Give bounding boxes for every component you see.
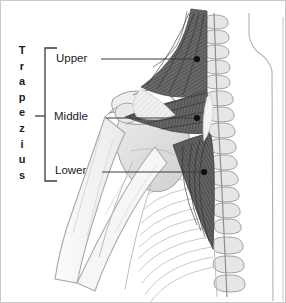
leader-dot-upper [194, 56, 200, 62]
leader-line-middle [106, 115, 200, 121]
annotation-layer [1, 1, 286, 303]
leader-dot-lower [201, 169, 207, 175]
title-letter: T [19, 43, 26, 59]
title-letter: s [19, 168, 25, 184]
label-lower-trapezius: Lower [55, 164, 86, 177]
title-letter: e [19, 105, 25, 121]
leader-dot-middle [194, 115, 200, 121]
label-upper-trapezius: Upper [56, 52, 87, 65]
title-letter: a [19, 74, 25, 90]
title-letter: u [19, 152, 26, 168]
leader-line-upper [101, 56, 200, 62]
title-letter: z [19, 121, 25, 137]
title-letter: p [19, 90, 26, 106]
trapezius-anatomy-figure: T r a p e z i u s Upper Middle Lower [0, 0, 286, 303]
trapezius-vertical-title: T r a p e z i u s [14, 43, 30, 183]
leader-line-lower [102, 169, 207, 175]
label-middle-trapezius: Middle [54, 110, 88, 123]
title-letter: i [20, 137, 23, 153]
title-letter: r [20, 59, 24, 75]
